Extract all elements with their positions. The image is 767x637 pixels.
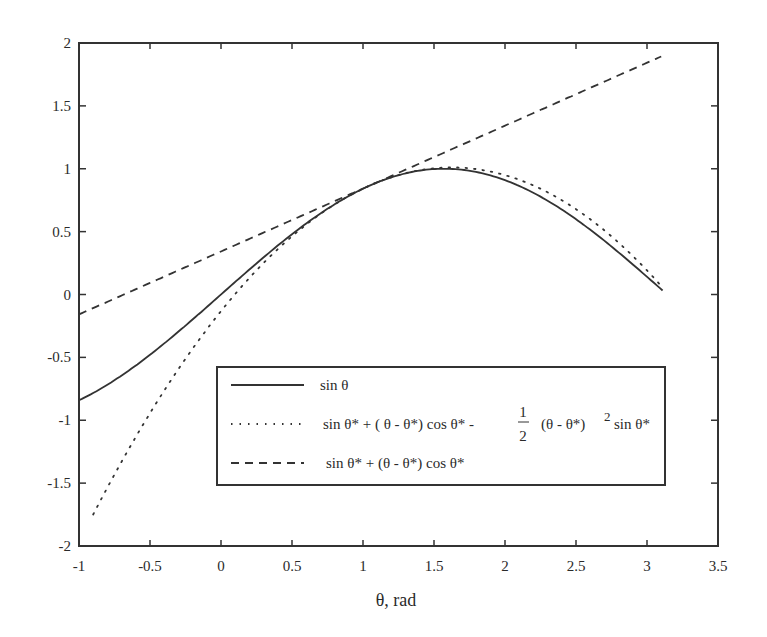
- x-axis-label: θ, rad: [376, 590, 417, 610]
- y-tick-label: 1: [64, 161, 72, 177]
- legend-fraction-numerator: 1: [519, 404, 527, 420]
- x-tick-label: 0: [217, 558, 225, 574]
- y-tick-label: 2: [64, 35, 72, 51]
- y-tick-label: 0: [64, 287, 72, 303]
- x-tick-label: 1: [359, 558, 367, 574]
- series-solid-line: [79, 169, 663, 400]
- legend-label-sin: sin θ: [320, 377, 348, 393]
- y-tick-label: 0.5: [52, 224, 71, 240]
- x-tick-label: -1: [73, 558, 86, 574]
- x-tick-label: 3.5: [709, 558, 728, 574]
- legend-label-second-order-end: sin θ*: [614, 416, 650, 432]
- x-tick-label: 2: [501, 558, 509, 574]
- y-tick-label: -0.5: [47, 349, 71, 365]
- x-tick-label: -0.5: [138, 558, 162, 574]
- legend-label-first-order: sin θ* + (θ - θ*) cos θ*: [326, 455, 464, 472]
- legend-label-second-order-tail: (θ - θ*): [541, 416, 585, 433]
- legend-label-second-order-head: sin θ* + ( θ - θ*) cos θ* -: [323, 416, 474, 433]
- y-tick-label: -1.5: [47, 475, 71, 491]
- axes: -1-0.500.511.522.533.5-2-1.5-1-0.500.511…: [47, 35, 727, 574]
- y-tick-label: 1.5: [52, 98, 71, 114]
- x-tick-label: 0.5: [283, 558, 302, 574]
- chart-figure: -1-0.500.511.522.533.5-2-1.5-1-0.500.511…: [0, 0, 767, 637]
- x-tick-label: 1.5: [425, 558, 444, 574]
- legend-label-exponent: 2: [604, 409, 611, 424]
- y-tick-label: -1: [59, 412, 72, 428]
- y-tick-label: -2: [59, 538, 72, 554]
- legend-fraction-denominator: 2: [519, 428, 527, 444]
- x-tick-label: 3: [643, 558, 651, 574]
- legend: sin θ sin θ* + ( θ - θ*) cos θ* - 1 2 (θ…: [217, 367, 665, 485]
- x-tick-label: 2.5: [567, 558, 586, 574]
- legend-label-second-order: sin θ* + ( θ - θ*) cos θ* -: [323, 416, 474, 433]
